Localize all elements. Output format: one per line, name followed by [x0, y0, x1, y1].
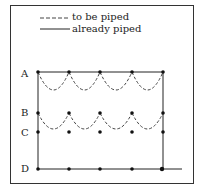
- dashed-arcs-a: [38, 72, 163, 90]
- junction-dots: [36, 70, 165, 171]
- dashed-arcs-b: [38, 113, 163, 129]
- pipe-diagram: [0, 0, 206, 193]
